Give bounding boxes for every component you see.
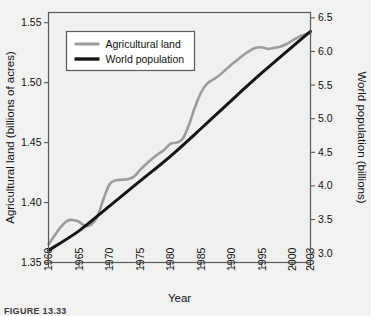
y2-axis-title: World population (billions) [356, 71, 368, 203]
legend: Agricultural landWorld population [67, 32, 195, 71]
y-tick-label: 1.55 [21, 16, 42, 28]
x-axis-title: Year [168, 292, 191, 304]
y2-tick-label: 4.5 [318, 146, 333, 158]
x-tick-label: 1995 [256, 247, 268, 271]
y-tick-label: 1.35 [21, 256, 42, 268]
y2-tick-label: 5.5 [318, 79, 333, 91]
y2-tick-label: 5.0 [318, 112, 333, 124]
y-axis-title: Agricultural land (billions of acres) [4, 51, 16, 224]
y2-tick-label: 6.5 [318, 11, 333, 23]
y2-tick-label: 3.5 [318, 213, 333, 225]
x-tick-label: 1980 [164, 247, 176, 271]
x-tick-label: 1985 [195, 247, 207, 271]
y2-tick-label: 6.0 [318, 45, 333, 57]
legend-label-1: World population [106, 53, 185, 65]
x-tick-label: 1965 [73, 247, 85, 271]
figure-caption: FIGURE 13.33 [4, 306, 67, 316]
x-tick-label: 1975 [134, 247, 146, 271]
y2-tick-label: 3.0 [318, 247, 333, 259]
y-tick-label: 1.45 [21, 136, 42, 148]
figure-container: 1.351.401.451.501.553.03.54.04.55.05.56.… [0, 0, 371, 316]
x-tick-label: 1970 [103, 247, 115, 271]
chart-svg: 1.351.401.451.501.553.03.54.04.55.05.56.… [0, 0, 371, 316]
x-tick-label: 2000 [286, 247, 298, 271]
y2-tick-label: 4.0 [318, 179, 333, 191]
legend-label-0: Agricultural land [106, 38, 181, 50]
y-tick-label: 1.50 [21, 76, 42, 88]
x-tick-label: 1990 [225, 247, 237, 271]
y-tick-label: 1.40 [21, 196, 42, 208]
